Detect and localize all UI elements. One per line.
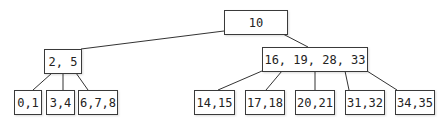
leaf-node: 31,32 (345, 90, 385, 115)
leaf-node-label: 17,18 (247, 96, 283, 110)
leaf-node: 3,4 (46, 90, 75, 115)
root-node-label: 10 (249, 16, 263, 30)
root-node: 10 (224, 10, 288, 35)
edge-root-left (81, 31, 224, 49)
leaf-node: 20,21 (295, 90, 335, 115)
edge-right-3 (345, 71, 349, 90)
leaf-node: 34,35 (395, 90, 435, 115)
leaf-node-label: 3,4 (50, 96, 72, 110)
leaf-node-label: 20,21 (297, 96, 333, 110)
edge-left-2 (76, 73, 88, 90)
leaf-node-label: 14,15 (196, 96, 232, 110)
leaf-node-label: 31,32 (347, 96, 383, 110)
leaf-node-label: 6,7,8 (80, 96, 116, 110)
leaf-node: 14,15 (194, 90, 235, 115)
leaf-node: 6,7,8 (78, 90, 118, 115)
leaf-node: 17,18 (245, 90, 285, 115)
internal-node-right: 16, 19, 28, 33 (262, 47, 368, 72)
internal-node-left: 2, 5 (44, 49, 82, 74)
leaf-node-label: 0,1 (17, 96, 39, 110)
edge-right-4 (367, 71, 397, 90)
leaf-node: 0,1 (14, 90, 42, 115)
internal-node-left-label: 2, 5 (49, 55, 78, 69)
edge-left-0 (33, 73, 52, 90)
internal-node-right-label: 16, 19, 28, 33 (264, 53, 365, 67)
edge-root-right (283, 34, 308, 47)
leaf-node-label: 34,35 (397, 96, 433, 110)
edge-right-1 (266, 71, 282, 90)
edge-right-0 (218, 71, 262, 90)
